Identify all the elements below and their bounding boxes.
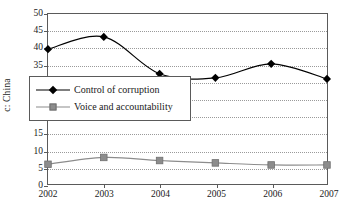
square-marker-icon: [36, 101, 70, 113]
y-axis-tick-label: 35: [8, 61, 48, 71]
x-axis-tick-label: 2004: [151, 190, 170, 200]
diamond-marker-icon: [36, 84, 70, 96]
legend-item-control-of-corruption: Control of corruption: [36, 81, 184, 98]
data-point-square-marker: [212, 160, 219, 167]
data-point-square-marker: [101, 154, 108, 161]
x-axis-tick-label: 2003: [95, 190, 114, 200]
y-axis-tick-label: 40: [8, 44, 48, 54]
x-axis-tick-label: 2006: [263, 190, 282, 200]
data-point-square-marker: [156, 157, 163, 164]
y-axis-tick-label: 5: [8, 164, 48, 174]
y-axis-tick-label: 15: [8, 130, 48, 140]
legend-label-control-of-corruption: Control of corruption: [74, 85, 160, 95]
y-axis-tick-label: 10: [8, 147, 48, 157]
y-axis-tick-label: 50: [8, 9, 48, 19]
data-point-square-marker: [45, 161, 52, 168]
series-voice-and-accountability: [45, 154, 331, 168]
legend-label-voice-and-accountability: Voice and accountability: [74, 102, 173, 112]
data-point-square-marker: [324, 162, 331, 169]
x-axis-tick-label: 2002: [39, 190, 58, 200]
data-point-diamond-marker: [211, 74, 219, 82]
series-line: [48, 36, 327, 79]
series-line: [48, 157, 327, 165]
data-point-square-marker: [268, 162, 275, 169]
x-axis-tick-label: 2007: [320, 190, 339, 200]
y-axis-tick-mark: [44, 186, 48, 187]
chart-figure: c: China 05101520253035404550 2002200320…: [0, 0, 345, 214]
x-axis-tick-label: 2005: [207, 190, 226, 200]
data-point-diamond-marker: [323, 75, 331, 83]
legend-item-voice-and-accountability: Voice and accountability: [36, 98, 184, 115]
chart-legend: Control of corruption Voice and accounta…: [29, 76, 191, 121]
data-point-diamond-marker: [100, 33, 108, 41]
y-axis-tick-label: 45: [8, 26, 48, 36]
data-point-diamond-marker: [267, 60, 275, 68]
